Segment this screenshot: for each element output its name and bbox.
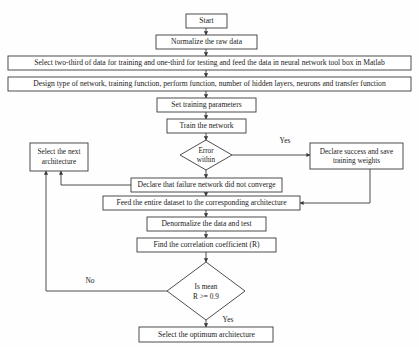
node-select-next-label-line1: Select the next	[38, 147, 81, 156]
node-error-within-label-line2: within	[197, 156, 216, 164]
node-declare-failure-label: Declare that failure network did not con…	[137, 180, 276, 189]
node-train-label: Train the network	[179, 121, 233, 130]
edge-label-ismean-no: No	[85, 276, 94, 285]
node-select-next-label-line2: architecture	[42, 157, 76, 166]
node-select-next[interactable]: Select the next architecture	[30, 143, 88, 171]
node-declare-failure[interactable]: Declare that failure network did not con…	[131, 178, 282, 192]
node-denormalize-label: Denormalize the data and test	[161, 219, 252, 228]
node-error-within-label-line1: Error	[198, 147, 214, 155]
node-set-params[interactable]: Set training parameters	[157, 98, 256, 112]
edge-label-ismean-yes: Yes	[223, 315, 234, 324]
node-normalize-label: Normalize the raw data	[171, 37, 243, 46]
edge-failure-to-selectnext	[61, 171, 131, 185]
node-is-mean[interactable]: Is mean R >= 0.9	[167, 262, 245, 320]
flowchart-canvas: Start Normalize the raw data Select two-…	[0, 0, 419, 347]
node-select-data[interactable]: Select two-third of data for training an…	[8, 56, 411, 70]
edge-label-error-yes: Yes	[280, 136, 291, 145]
node-denormalize[interactable]: Denormalize the data and test	[147, 217, 266, 231]
node-feed-dataset-label: Feed the entire dataset to the correspon…	[116, 198, 287, 207]
flowchart-svg: Start Normalize the raw data Select two-…	[0, 0, 419, 347]
node-select-data-label: Select two-third of data for training an…	[34, 58, 385, 67]
node-start[interactable]: Start	[186, 14, 227, 28]
node-train[interactable]: Train the network	[167, 119, 246, 133]
node-normalize[interactable]: Normalize the raw data	[156, 35, 257, 49]
node-declare-success-label-line1: Declare success and save	[320, 147, 394, 156]
node-is-mean-label-line2: R >= 0.9	[193, 292, 219, 301]
node-select-optimum-label: Select the optimum architecture	[158, 330, 255, 339]
node-feed-dataset[interactable]: Feed the entire dataset to the correspon…	[103, 196, 300, 210]
node-set-params-label: Set training parameters	[171, 100, 241, 109]
node-error-within[interactable]: Error within	[180, 140, 232, 170]
node-design-network[interactable]: Design type of network, training functio…	[8, 77, 411, 91]
edge-success-to-feed	[300, 168, 370, 203]
node-is-mean-label-line1: Is mean	[195, 282, 218, 291]
node-select-optimum[interactable]: Select the optimum architecture	[139, 327, 273, 342]
node-find-corr-label: Find the correlation coefficient (R)	[153, 240, 260, 249]
node-declare-success[interactable]: Declare success and save training weight…	[310, 143, 403, 169]
node-declare-success-label-line2: training weights	[333, 156, 380, 165]
node-design-network-label: Design type of network, training functio…	[33, 79, 386, 88]
node-find-corr[interactable]: Find the correlation coefficient (R)	[137, 238, 276, 252]
node-start-label: Start	[199, 16, 214, 25]
